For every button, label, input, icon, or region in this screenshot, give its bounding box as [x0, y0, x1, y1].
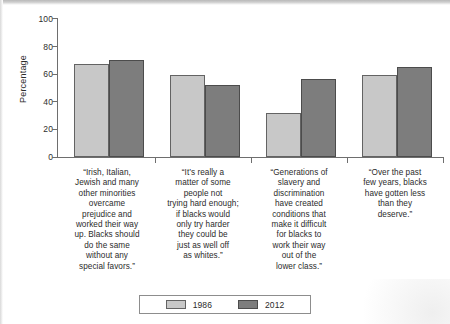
legend-entry-2012: 2012	[238, 300, 284, 310]
bar-1986-group-2	[266, 113, 301, 157]
x-tick-separator-2	[347, 158, 348, 163]
plot-area	[57, 18, 443, 157]
bar-1986-group-0	[74, 64, 109, 157]
x-tick-separator-1	[251, 158, 252, 163]
bar-1986-group-1	[170, 75, 205, 157]
x-tick-separator-3	[443, 158, 444, 163]
bar-chart-figure: Percentage 100 80 60 40 20 0	[0, 0, 450, 324]
y-tick-label-60: 60	[13, 70, 53, 78]
x-category-label-3: “Over the pastfew years, blackshave gott…	[350, 168, 440, 220]
legend-label-1986: 1986	[193, 300, 212, 310]
y-tick-label-20: 20	[13, 125, 53, 133]
x-category-label-2: “Generations ofslavery anddiscrimination…	[254, 168, 344, 272]
bar-2012-group-2	[301, 79, 336, 157]
y-tick-label-80: 80	[13, 43, 53, 51]
x-tick-separator-0	[155, 158, 156, 163]
bar-2012-group-0	[109, 60, 144, 157]
x-category-label-0: “Irish, Italian,Jewish and manyother min…	[62, 168, 152, 272]
legend-swatch-1986	[166, 300, 186, 309]
legend-swatch-2012	[238, 300, 258, 309]
x-category-label-1: “It’s really amatter of somepeople nottr…	[158, 168, 248, 262]
chart-legend: 1986 2012	[139, 295, 311, 314]
y-tick-label-40: 40	[13, 98, 53, 106]
y-tick-label-100: 100	[13, 15, 53, 23]
bar-1986-group-3	[362, 75, 397, 157]
y-tick-label-0: 0	[13, 153, 53, 161]
bar-2012-group-3	[397, 67, 432, 157]
legend-label-2012: 2012	[265, 300, 284, 310]
bar-2012-group-1	[205, 85, 240, 157]
legend-entry-1986: 1986	[166, 300, 212, 310]
